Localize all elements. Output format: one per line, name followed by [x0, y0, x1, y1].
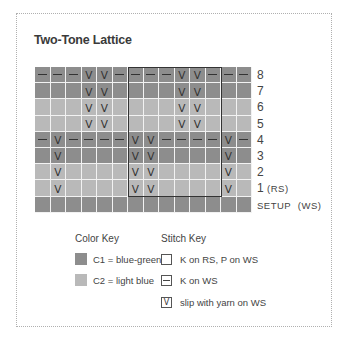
chart-cell	[113, 197, 129, 213]
dash-symbol-icon	[177, 139, 186, 140]
dash-symbol-icon	[38, 139, 47, 140]
chart-cell	[82, 197, 98, 213]
chart-cell	[35, 116, 51, 132]
chart-cell	[206, 132, 222, 148]
chart-cell	[113, 99, 129, 115]
chart-cell	[144, 197, 160, 213]
chart-cell: V	[221, 148, 237, 164]
row-label: 3	[257, 148, 322, 164]
chart-cell	[113, 132, 129, 148]
chart-cell	[97, 164, 113, 180]
chart-cell	[206, 148, 222, 164]
chart-cell	[113, 83, 129, 99]
chart-cell	[206, 99, 222, 115]
chart-cell	[66, 180, 82, 196]
chart-cell	[82, 164, 98, 180]
stitch-key-title: Stitch Key	[161, 233, 206, 244]
chart-cell	[190, 164, 206, 180]
chart-cell	[159, 148, 175, 164]
chart-cell	[51, 83, 67, 99]
chart-cell: V	[82, 116, 98, 132]
chart-cell	[237, 116, 253, 132]
dash-symbol-icon	[239, 139, 248, 140]
slip-symbol-icon: V	[147, 167, 154, 178]
chart-cell	[159, 197, 175, 213]
chart-cell	[221, 83, 237, 99]
slip-symbol-icon: V	[132, 183, 139, 194]
chart-cell: V	[175, 83, 191, 99]
chart-cell	[175, 132, 191, 148]
chart-cell	[66, 116, 82, 132]
chart-cell	[66, 99, 82, 115]
chart-cell	[66, 83, 82, 99]
row-label: 2	[257, 164, 322, 180]
chart-cell	[66, 164, 82, 180]
chart-cell	[82, 180, 98, 196]
chart-cell: V	[97, 83, 113, 99]
chart-cell: V	[51, 148, 67, 164]
chart-cell	[97, 197, 113, 213]
chart-cell: V	[128, 148, 144, 164]
swatch-c2	[75, 274, 87, 286]
chart-cell	[237, 148, 253, 164]
chart-cell	[66, 67, 82, 83]
chart-cell	[175, 148, 191, 164]
slip-symbol-icon: V	[85, 86, 92, 97]
slip-symbol-icon: V	[178, 70, 185, 81]
slip-symbol-icon: V	[101, 118, 108, 129]
chart-cell	[51, 67, 67, 83]
chart-cell	[159, 67, 175, 83]
slip-symbol-icon: V	[178, 118, 185, 129]
chart-cell	[190, 148, 206, 164]
chart-cell	[128, 197, 144, 213]
color-key-c1-label: C1 = blue-green	[93, 254, 161, 265]
slip-symbol-icon: V	[132, 151, 139, 162]
chart-cell	[35, 99, 51, 115]
chart-cell: V	[82, 83, 98, 99]
dash-symbol-icon	[162, 139, 171, 140]
slip-symbol-icon: V	[85, 118, 92, 129]
chart-cell	[237, 67, 253, 83]
chart-cell	[237, 83, 253, 99]
row-label: 6	[257, 99, 322, 115]
row-label: 5	[257, 116, 322, 132]
chart-cell	[66, 132, 82, 148]
chart-cell: V	[144, 180, 160, 196]
dash-symbol-icon	[208, 139, 217, 140]
chart-cell: V	[221, 164, 237, 180]
dash-symbol-icon	[69, 139, 78, 140]
chart-cell	[35, 132, 51, 148]
chart-cell: V	[175, 116, 191, 132]
chart-cell	[97, 132, 113, 148]
stitch-key-k-ws-label: K on WS	[180, 275, 218, 286]
slip-symbol-icon: V	[194, 70, 201, 81]
chart-cell	[128, 116, 144, 132]
chart-cell	[144, 83, 160, 99]
chart-cell	[51, 197, 67, 213]
chart-cell: V	[190, 67, 206, 83]
dash-symbol-icon	[224, 74, 233, 75]
dash-symbol-icon	[100, 139, 109, 140]
chart-cell	[144, 116, 160, 132]
color-key-c2-label: C2 = light blue	[93, 275, 154, 286]
chart-cell	[128, 67, 144, 83]
slip-symbol-icon: V	[194, 86, 201, 97]
chart-cell	[237, 197, 253, 213]
slip-symbol-icon: V	[54, 167, 61, 178]
dash-symbol-icon	[84, 139, 93, 140]
chart-cell	[190, 197, 206, 213]
chart-cell: V	[221, 180, 237, 196]
chart-cell	[66, 148, 82, 164]
chart-cell: V	[82, 67, 98, 83]
slip-symbol-icon: V	[225, 151, 232, 162]
row-label: 4	[257, 132, 322, 148]
chart-cell	[35, 197, 51, 213]
slip-symbol-icon: V	[85, 70, 92, 81]
slip-symbol-icon: V	[54, 183, 61, 194]
chart-cell	[221, 99, 237, 115]
chart-cell	[113, 164, 129, 180]
chart-title: Two-Tone Lattice	[34, 33, 132, 47]
color-key-title: Color Key	[75, 233, 119, 244]
slip-symbol-icon: V	[101, 102, 108, 113]
dash-symbol-icon	[53, 74, 62, 75]
